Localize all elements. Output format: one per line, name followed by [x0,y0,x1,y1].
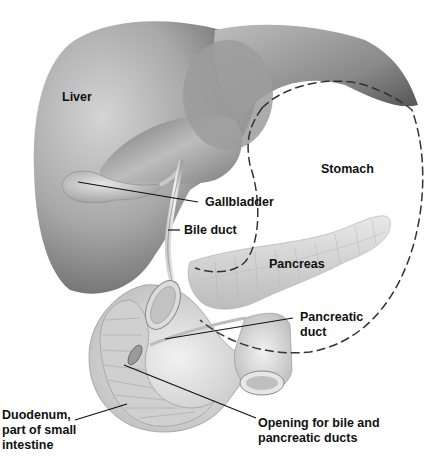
label-duodenum: Duodenum, part of small intestine [2,408,76,453]
label-pancreatic-duct-line2: duct [300,325,363,340]
label-stomach: Stomach [321,162,374,177]
label-liver: Liver [62,90,92,105]
liver-caudate-lobe [183,40,273,150]
label-duodenum-line2: part of small [2,423,76,438]
jejunum-lumen [246,376,278,390]
anatomy-diagram: Liver Stomach Gallbladder Bile duct Panc… [0,0,433,456]
label-duodenum-line3: intestine [2,438,76,453]
label-opening: Opening for bile and pancreatic ducts [258,416,380,446]
label-opening-line1: Opening for bile and [258,416,380,431]
label-pancreas: Pancreas [269,257,325,272]
label-gallbladder: Gallbladder [205,195,274,210]
label-duodenum-line1: Duodenum, [2,408,76,423]
label-opening-line2: pancreatic ducts [258,431,380,446]
label-bile-duct: Bile duct [184,223,237,238]
label-pancreatic-duct-line1: Pancreatic [300,310,363,325]
label-pancreatic-duct: Pancreatic duct [300,310,363,340]
